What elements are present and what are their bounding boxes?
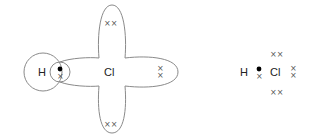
orbital-diagram: H Cl × ×× ×× × ×	[24, 5, 178, 133]
dot-cross-diagram: H × Cl ×× ×× × ×	[240, 50, 297, 97]
left-petal-bottom	[60, 82, 99, 86]
h-electron-dot	[58, 67, 63, 72]
cl-shared-electron: ×	[57, 72, 64, 81]
h-electron-dot-dc	[257, 67, 262, 72]
cl-label: Cl	[104, 66, 114, 78]
right-lone-pair-2-dc: ×	[290, 71, 297, 80]
hcl-bonding-diagram: H Cl × ×× ×× × × H × Cl ×× ×× × ×	[0, 0, 315, 136]
top-lone-pair-dc: ××	[270, 50, 283, 59]
top-lone-pair: ××	[104, 19, 117, 28]
h-label-dc: H	[240, 66, 248, 78]
bottom-lone-pair: ××	[104, 120, 117, 129]
cl-label-dc: Cl	[270, 66, 280, 78]
bottom-lone-pair-dc: ××	[270, 88, 283, 97]
top-petal	[98, 5, 125, 58]
right-petal	[125, 57, 178, 87]
h-label: H	[38, 66, 46, 78]
cl-shared-electron-dc: ×	[256, 72, 263, 81]
right-lone-pair-2: ×	[157, 71, 164, 80]
left-petal-top	[60, 58, 99, 62]
